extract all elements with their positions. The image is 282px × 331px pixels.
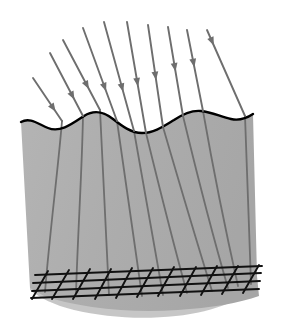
ray-arrowhead-icon: [133, 77, 140, 86]
ray-arrowhead-icon: [82, 80, 89, 89]
incident-ray: [63, 40, 100, 110]
incident-ray: [83, 28, 117, 121]
ray-arrowhead-icon: [48, 103, 56, 112]
ray-arrowhead-icon: [171, 63, 178, 72]
incident-ray: [50, 53, 83, 116]
optics-refraction-diagram: [0, 0, 282, 331]
ray-arrowhead-icon: [118, 83, 125, 92]
diagram-canvas: [0, 0, 282, 331]
ray-arrowhead-icon: [151, 71, 158, 80]
ray-arrowhead-icon: [67, 91, 74, 100]
ray-arrowhead-icon: [100, 82, 106, 91]
ray-arrowhead-icon: [207, 36, 214, 45]
incident-ray: [187, 30, 203, 111]
incident-ray: [33, 78, 62, 121]
